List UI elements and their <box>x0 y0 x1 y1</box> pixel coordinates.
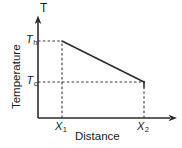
tick-label-x2-subscript: 2 <box>145 125 149 134</box>
y-axis-title: Temperature <box>11 34 23 120</box>
temperature-distance-figure: T Th Tc X1 X2 Distance Temperature <box>0 0 182 148</box>
tick-label-x1-base: X <box>55 120 62 132</box>
tick-label-tc: Tc <box>27 75 37 86</box>
tick-label-th-base: T <box>26 33 33 45</box>
temperature-profile-line <box>62 41 144 82</box>
tick-label-x2-base: X <box>137 120 144 132</box>
tick-label-tc-subscript: c <box>34 79 38 88</box>
tick-label-th-subscript: h <box>33 38 37 47</box>
x-axis-title: Distance <box>75 131 120 143</box>
tick-label-x1: X1 <box>55 121 67 132</box>
tick-label-x2: X2 <box>137 121 149 132</box>
tick-label-x1-subscript: 1 <box>63 125 67 134</box>
temperature-axis-symbol: T <box>40 2 47 14</box>
tick-label-th: Th <box>26 34 37 45</box>
tick-label-tc-base: T <box>27 74 34 86</box>
